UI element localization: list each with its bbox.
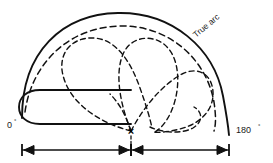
inner-dashed-arc-curve [25, 26, 216, 131]
start-angle-label: 0 [7, 120, 12, 130]
right-span-arrowhead-right [217, 146, 227, 155]
left-span-arrowhead-right [119, 146, 129, 155]
true-arc-label: True arc [191, 11, 222, 39]
center-x-marker: × [128, 125, 134, 137]
arc-diagram: × 0 ° 180 ° True arc [0, 0, 273, 163]
end-angle-label-group: 180 ° [236, 123, 261, 135]
right-span-arrowhead-left [133, 146, 143, 155]
dimension-lines [22, 144, 229, 156]
start-angle-label-group: 0 ° [7, 118, 17, 130]
left-lobe-curve [19, 90, 131, 124]
end-angle-degree-icon: ° [258, 123, 261, 129]
dashed-lobe-lower-right-curve [150, 107, 201, 132]
start-angle-degree-icon: ° [14, 118, 17, 124]
left-span-arrowhead-left [24, 146, 34, 155]
dashed-loop-right-curve [131, 71, 213, 132]
end-angle-label: 180 [236, 125, 251, 135]
dashed-loop-center-curve [119, 38, 178, 132]
dashed-loop-left-curve [62, 38, 152, 131]
